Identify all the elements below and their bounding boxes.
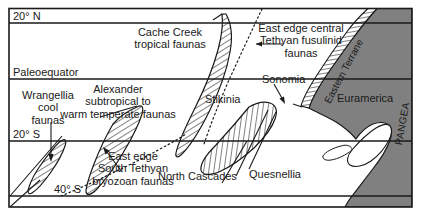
paleogeographic-map: 20° N Paleoequator 20° S 40° S Cache Cre… [0, 0, 421, 219]
map-canvas [0, 0, 421, 219]
